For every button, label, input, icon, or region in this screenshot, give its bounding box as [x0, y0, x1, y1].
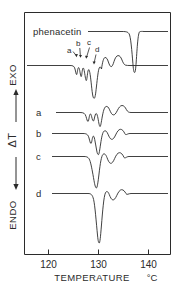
y-axis-delta-t-label: ΔT [6, 132, 18, 147]
trace-phenacetin-label: phenacetin [33, 26, 81, 37]
arrowhead-d [93, 61, 96, 64]
y-axis-exo-label: EXO [7, 64, 18, 86]
pointer-label-a: a [67, 46, 72, 55]
trace-c-path [52, 153, 168, 188]
pointer-annotations: a b c d [67, 38, 99, 64]
arrowhead-b [79, 55, 82, 58]
pointer-label-d: d [95, 45, 99, 54]
trace-b-path [52, 129, 168, 154]
exo-arrow [13, 89, 18, 122]
x-tick-label-120: 120 [40, 259, 57, 270]
x-axis-ticks [49, 250, 149, 255]
trace-c: c [36, 151, 168, 189]
leader-b [80, 48, 81, 56]
trace-a-path [56, 105, 168, 126]
x-tick-label-130: 130 [90, 259, 107, 270]
pointer-arrowheads [75, 54, 96, 64]
trace-c-label: c [36, 151, 41, 162]
trace-composite-path [27, 56, 168, 99]
trace-a: a [36, 105, 168, 126]
arrowhead-a [75, 54, 78, 57]
trace-d: d [36, 188, 168, 244]
trace-b: b [36, 128, 168, 155]
x-axis-title: TEMPERATURE [54, 272, 129, 283]
trace-composite [27, 56, 168, 99]
trace-b-label: b [36, 128, 41, 139]
leader-d [94, 55, 96, 63]
x-tick-label-140: 140 [140, 259, 157, 270]
figure-canvas: 120 130 140 TEMPERATURE °C EXO ΔT ENDO [0, 0, 186, 291]
dta-thermogram-figure: 120 130 140 TEMPERATURE °C EXO ΔT ENDO [0, 0, 186, 291]
leader-c [87, 48, 90, 58]
trace-phenacetin-path [88, 31, 168, 72]
arrowhead-c [85, 56, 88, 59]
pointer-label-b: b [76, 39, 81, 48]
x-axis-tick-labels: 120 130 140 [40, 259, 157, 270]
y-axis-endo-label: ENDO [7, 200, 18, 229]
trace-a-label: a [36, 107, 42, 118]
trace-d-path [52, 190, 168, 243]
trace-d-label: d [36, 188, 41, 199]
pointer-label-c: c [87, 38, 91, 47]
y-axis-group: EXO ΔT ENDO [6, 64, 19, 230]
x-axis-unit: °C [147, 272, 158, 283]
endo-arrow [13, 157, 18, 190]
